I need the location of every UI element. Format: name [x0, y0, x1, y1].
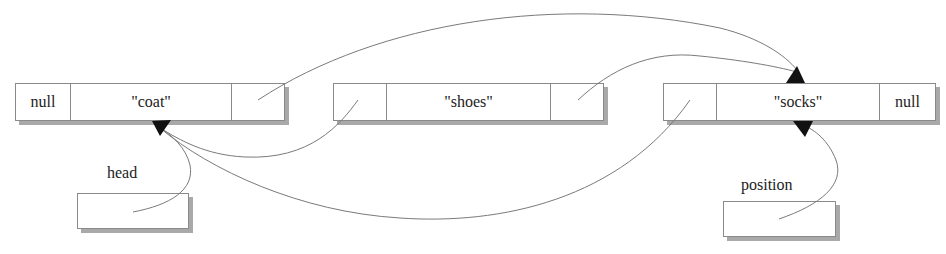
arrowhead-coat-icon — [152, 120, 171, 136]
node-shoes-prev-cell — [334, 84, 387, 120]
node-socks-prev-cell — [664, 84, 717, 120]
node-coat-next-cell — [232, 84, 284, 120]
arrowhead-socks-bottom-icon — [793, 121, 813, 137]
node-socks-next-cell: null — [880, 84, 935, 120]
position-pointer-box — [723, 201, 836, 237]
node-socks: "socks" null — [663, 83, 936, 121]
node-coat: null "coat" — [15, 83, 285, 121]
position-label: position — [741, 176, 793, 194]
node-socks-value-cell: "socks" — [717, 84, 880, 120]
arrowhead-socks-top-icon — [786, 66, 805, 83]
head-label: head — [107, 164, 137, 182]
node-coat-prev-cell: null — [16, 84, 71, 120]
node-shoes-next-cell — [551, 84, 603, 120]
node-coat-value-cell: "coat" — [71, 84, 232, 120]
head-pointer-box — [77, 193, 189, 229]
node-shoes-value-cell: "shoes" — [387, 84, 551, 120]
node-shoes: "shoes" — [333, 83, 604, 121]
